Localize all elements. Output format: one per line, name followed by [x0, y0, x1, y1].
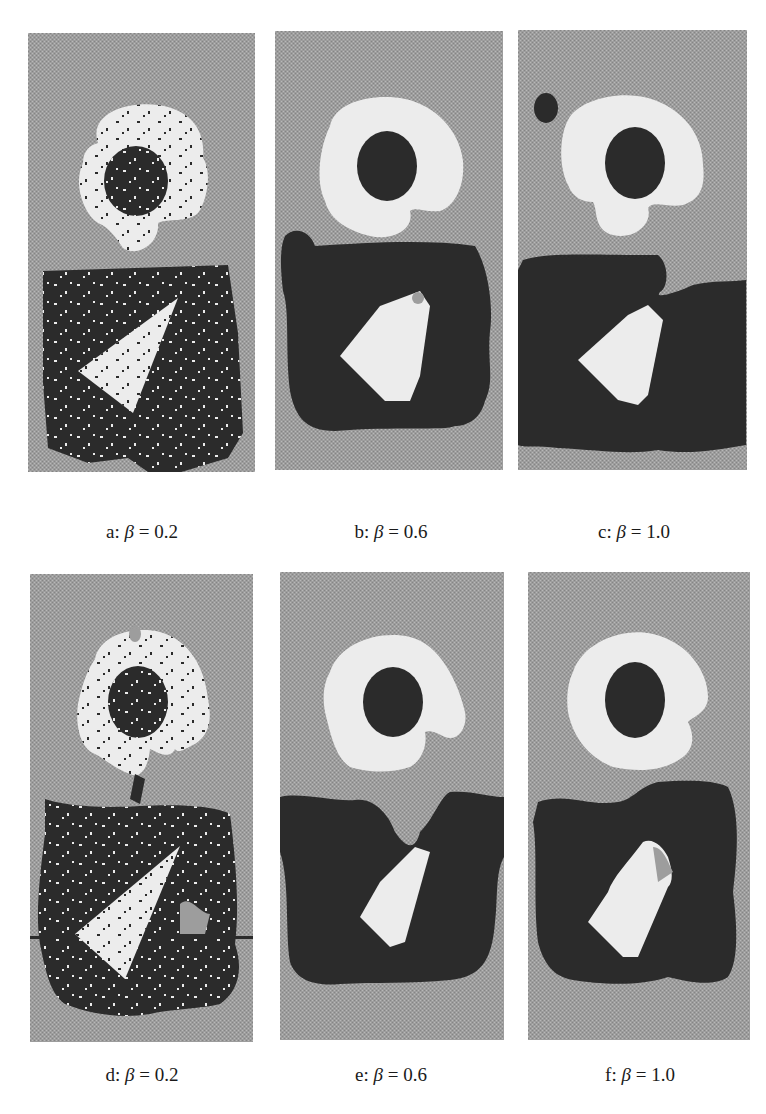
caption-letter: a:: [106, 521, 120, 542]
beta-symbol: β: [621, 1064, 630, 1085]
panel-a: [28, 33, 255, 472]
beta-value: = 0.2: [139, 1064, 178, 1085]
beta-value: = 0.6: [388, 1064, 427, 1085]
panel-d: [30, 574, 253, 1042]
caption-letter: c:: [598, 521, 612, 542]
panel-e: [280, 572, 504, 1040]
beta-symbol: β: [374, 521, 383, 542]
caption-letter: d:: [106, 1064, 121, 1085]
caption-c: c: β = 1.0: [519, 521, 749, 543]
caption-b: b: β = 0.6: [276, 521, 506, 543]
beta-value: = 0.6: [388, 521, 427, 542]
caption-f: f: β = 1.0: [525, 1064, 755, 1086]
beta-value: = 0.2: [139, 521, 178, 542]
caption-d: d: β = 0.2: [27, 1064, 257, 1086]
caption-e: e: β = 0.6: [276, 1064, 506, 1086]
panel-f: [528, 572, 750, 1040]
beta-symbol: β: [125, 1064, 134, 1085]
panel-c: [518, 30, 747, 470]
caption-letter: f:: [605, 1064, 617, 1085]
panel-b: [275, 31, 503, 470]
beta-symbol: β: [617, 521, 626, 542]
beta-symbol: β: [374, 1064, 383, 1085]
beta-value: = 1.0: [631, 521, 670, 542]
caption-a: a: β = 0.2: [27, 521, 257, 543]
beta-value: = 1.0: [636, 1064, 675, 1085]
caption-letter: e:: [355, 1064, 369, 1085]
beta-symbol: β: [125, 521, 134, 542]
caption-letter: b:: [355, 521, 370, 542]
